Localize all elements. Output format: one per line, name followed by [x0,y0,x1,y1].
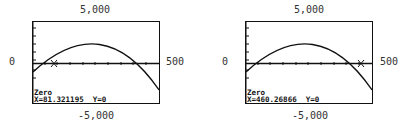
parabola-curve [33,44,159,90]
x-min-label: 0 [9,56,15,67]
x-value: X=81.321195 [34,95,84,104]
zero-readout: Zero X=460.26866 Y=0 [247,89,319,103]
calculator-screen: Zero X=460.26866 Y=0 [245,21,373,104]
parabola-curve [246,44,372,90]
y-min-label: -5,000 [292,110,328,121]
zero-readout: Zero X=81.321195 Y=0 [34,89,106,103]
y-max-label: 5,000 [294,4,324,15]
x-max-label: 500 [166,56,184,67]
x-max-label: 500 [380,56,398,67]
y-min-label: -5,000 [78,110,114,121]
graph-panel-left: 5,000 0 500 -5,000 [0,0,200,130]
calculator-screen: Zero X=81.321195 Y=0 [32,21,160,104]
x-value: X=460.26866 [247,95,297,104]
y-max-label: 5,000 [80,4,110,15]
x-min-label: 0 [222,56,228,67]
y-value: Y=0 [93,95,107,104]
y-value: Y=0 [306,95,320,104]
graph-panel-right: 5,000 0 500 -5,000 Zero [200,0,400,130]
